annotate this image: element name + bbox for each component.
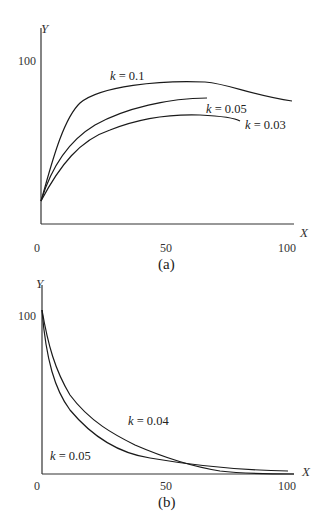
y-axis-label-a: Y	[41, 21, 50, 36]
y-tick-100-a: 100	[18, 54, 36, 68]
x-tick-100-a: 100	[278, 241, 296, 255]
chart-a: Y X 100 0 50 100 k = 0.1 k = 0.05 k = 0.…	[18, 21, 309, 273]
x-tick-50-a: 50	[160, 241, 172, 255]
label-k-0.03-a: k = 0.03	[245, 118, 286, 132]
caption-a: (a)	[158, 256, 175, 273]
x-axis-label-b: X	[301, 464, 311, 479]
curve-k-0.05-b	[42, 310, 288, 471]
label-k-0.04-b: k = 0.04	[128, 414, 169, 428]
figure: Y X 100 0 50 100 k = 0.1 k = 0.05 k = 0.…	[0, 0, 324, 531]
x-tick-0-b: 0	[34, 479, 40, 493]
label-k-0.05-b: k = 0.05	[50, 449, 91, 463]
label-k-0.05-a: k = 0.05	[206, 102, 247, 116]
chart-b: Y X 100 0 50 100 k = 0.04 k = 0.05 (b)	[18, 276, 311, 511]
x-tick-100-b: 100	[278, 479, 296, 493]
curve-k-0.03-a	[41, 115, 240, 201]
curve-k-0.1-a	[41, 82, 292, 201]
x-tick-0-a: 0	[34, 241, 40, 255]
caption-b: (b)	[158, 494, 176, 511]
y-axis-label-b: Y	[36, 276, 45, 291]
x-axis-label-a: X	[299, 225, 309, 240]
x-tick-50-b: 50	[160, 479, 172, 493]
curve-k-0.05-a	[41, 98, 207, 201]
label-k-0.1-a: k = 0.1	[110, 69, 145, 83]
y-tick-100-b: 100	[18, 309, 36, 323]
